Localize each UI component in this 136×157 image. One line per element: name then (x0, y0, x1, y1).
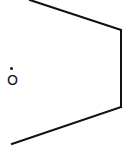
bond-lines (0, 0, 136, 157)
bond-top (30, 0, 121, 30)
oxygen-atom-label: O (7, 73, 18, 87)
bond-bottom (12, 107, 121, 144)
radical-dot-icon (10, 67, 13, 70)
structure-diagram: O (0, 0, 136, 157)
